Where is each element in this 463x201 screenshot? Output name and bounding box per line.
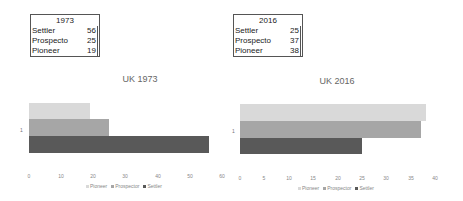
x-tick: 25: [359, 175, 365, 181]
x-tick: 20: [335, 175, 341, 181]
x-tick: 35: [408, 175, 414, 181]
x-tick: 40: [432, 175, 438, 181]
x-tick: 0: [239, 175, 242, 181]
x-tick: 30: [383, 175, 389, 181]
legend-item-pioneer: Pioneer: [298, 185, 319, 191]
swatch-icon: [323, 187, 326, 190]
bar-settler: [240, 138, 362, 154]
legend-item-settler: Settler: [355, 185, 373, 191]
x-tick: 15: [310, 175, 316, 181]
bar-prospector: [240, 121, 421, 138]
chart-uk-2016: UK 2016 1 0 5 10 15 20 25 30 35 40 Pione…: [0, 0, 463, 201]
x-tick: 5: [263, 175, 266, 181]
swatch-icon: [355, 187, 358, 190]
category-label: 1: [232, 128, 235, 134]
swatch-icon: [298, 187, 301, 190]
bar-pioneer: [240, 104, 426, 121]
chart-title: UK 2016: [297, 76, 377, 86]
x-tick: 10: [286, 175, 292, 181]
legend-item-prospector: Prospector: [323, 185, 351, 191]
chart-legend: Pioneer Prospector Settler: [298, 185, 374, 191]
